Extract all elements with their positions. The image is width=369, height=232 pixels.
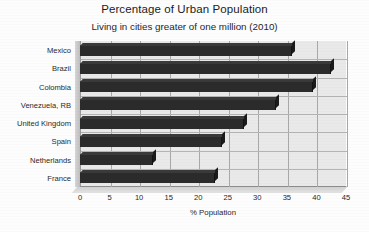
bar-row <box>80 132 346 150</box>
bar-side-face <box>331 58 334 72</box>
bar <box>80 45 292 56</box>
plot-floor <box>72 186 348 193</box>
bar-top-face <box>80 97 278 100</box>
category-label: France <box>47 170 71 189</box>
category-label: Mexico <box>47 42 71 61</box>
bar-row <box>80 169 346 187</box>
bar-top-face <box>80 61 333 64</box>
bar-side-face <box>292 40 295 54</box>
bar-side-face <box>215 168 218 182</box>
category-label: Colombia <box>39 79 71 98</box>
bar-top-face <box>80 134 225 137</box>
bar-series <box>80 41 346 187</box>
bar-top-face <box>80 43 294 46</box>
bar-top-face <box>80 116 246 119</box>
category-label: United Kingdom <box>17 115 71 134</box>
bar <box>80 136 222 147</box>
bar <box>80 172 215 183</box>
bar-row <box>80 151 346 169</box>
category-label: Netherlands <box>30 152 71 171</box>
x-tick-label: 5 <box>107 193 111 202</box>
bar-side-face <box>244 113 247 127</box>
bar-row <box>80 96 346 114</box>
x-tick-label: 35 <box>283 193 291 202</box>
x-axis-label: % Population <box>78 208 348 217</box>
bar-chart: Percentage of Urban Population Living in… <box>0 0 369 232</box>
chart-title: Percentage of Urban Population <box>0 3 369 15</box>
category-label: Spain <box>52 133 71 152</box>
bar-row <box>80 41 346 59</box>
bar-row <box>80 114 346 132</box>
bar-top-face <box>80 170 218 173</box>
bar-row <box>80 59 346 77</box>
bar-side-face <box>153 149 156 163</box>
x-tick-label: 40 <box>312 193 320 202</box>
x-tick-label: 45 <box>342 193 350 202</box>
gridline-vertical <box>347 41 348 187</box>
category-label: Brazil <box>52 60 71 79</box>
bar <box>80 154 153 165</box>
plot-area <box>78 41 348 191</box>
x-tick-label: 20 <box>194 193 202 202</box>
bar-side-face <box>276 95 279 109</box>
bar-top-face <box>80 152 156 155</box>
x-tick-label: 15 <box>164 193 172 202</box>
x-tick-label: 10 <box>135 193 143 202</box>
x-tick-label: 25 <box>224 193 232 202</box>
bar-top-face <box>80 79 316 82</box>
bar <box>80 81 313 92</box>
x-tick-label: 0 <box>78 193 82 202</box>
category-axis-labels: MexicoBrazilColombiaVenezuela, RBUnited … <box>0 41 74 189</box>
bar <box>80 63 331 74</box>
bar-row <box>80 78 346 96</box>
bar <box>80 99 276 110</box>
x-tick-label: 30 <box>253 193 261 202</box>
category-label: Venezuela, RB <box>21 97 71 116</box>
x-axis-ticks: 051015202530354045 <box>78 193 354 205</box>
bar <box>80 118 244 129</box>
bar-side-face <box>313 76 316 90</box>
chart-subtitle: Living in cities greater of one million … <box>0 21 369 32</box>
